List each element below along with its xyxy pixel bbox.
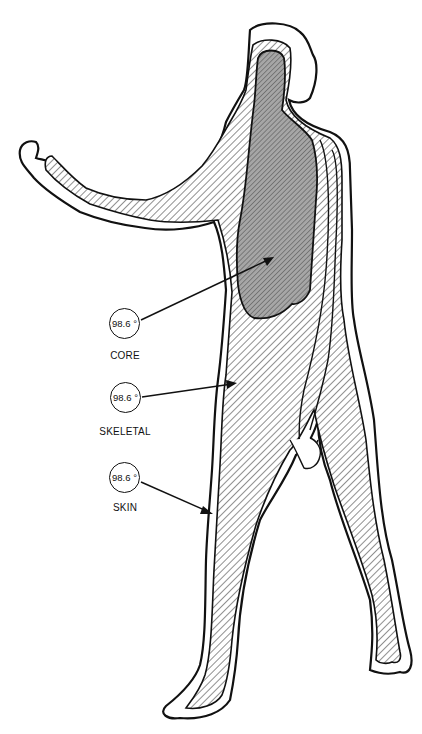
skeletal-temperature-badge: 98.6 ° [110,382,141,413]
core-label: CORE [85,350,165,361]
body-temperature-diagram [0,0,422,734]
core-temperature-badge: 98.6 ° [109,308,140,339]
skin-label: SKIN [85,502,165,513]
skin-temperature: 98.6 ° [112,472,137,483]
skin-temperature-badge: 98.6 ° [109,462,140,493]
core-temperature: 98.6 ° [112,318,137,329]
skeletal-label: SKELETAL [85,426,165,437]
skeletal-temperature: 98.6 ° [113,392,138,403]
